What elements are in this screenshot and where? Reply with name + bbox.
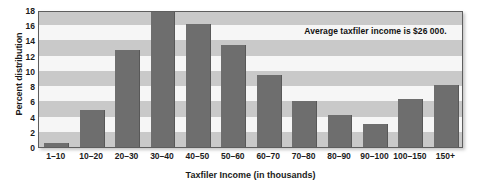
y-axis-tick-labels: 181614121086420 [17, 11, 35, 148]
x-axis-tick-label: 60–70 [256, 151, 280, 161]
x-axis-tick-label: 20–30 [115, 151, 139, 161]
bar [221, 45, 246, 147]
x-axis-tick-label: 1–10 [46, 151, 65, 161]
x-axis-tick-label: 100–150 [393, 151, 426, 161]
bar [398, 99, 423, 147]
x-axis-tick-labels: 1–1010–2020–3030–4040–5050–6060–7070–808… [38, 151, 463, 165]
bar [186, 24, 211, 147]
x-axis-tick-label: 90–100 [360, 151, 388, 161]
x-axis-tick-label: 30–40 [150, 151, 174, 161]
y-axis-tick-label: 14 [17, 36, 35, 46]
x-axis-tick-label: 50–60 [221, 151, 245, 161]
x-axis-title: Taxfiler Income (in thousands) [38, 170, 463, 180]
bar [363, 124, 388, 147]
bar-chart: Percent distribution 181614121086420 Ave… [0, 0, 481, 188]
x-axis-tick-label: 150+ [436, 151, 455, 161]
chart-annotation: Average taxfiler income is $26 000. [304, 26, 446, 36]
y-axis-tick-label: 10 [17, 67, 35, 77]
bar [151, 12, 176, 147]
bar [257, 75, 282, 147]
bar [292, 101, 317, 147]
x-axis-tick-label: 80–90 [327, 151, 351, 161]
bar [115, 50, 140, 147]
y-axis-tick-label: 18 [17, 6, 35, 16]
y-axis-tick-label: 0 [17, 143, 35, 153]
y-axis-tick-label: 6 [17, 97, 35, 107]
y-axis-tick-label: 2 [17, 128, 35, 138]
y-axis-tick-label: 4 [17, 113, 35, 123]
y-axis-tick-label: 12 [17, 52, 35, 62]
x-axis-tick-label: 10–20 [79, 151, 103, 161]
bar [80, 110, 105, 147]
x-axis-tick-label: 70–80 [292, 151, 316, 161]
bar [44, 143, 69, 147]
bar [434, 85, 459, 147]
x-axis-tick-label: 40–50 [186, 151, 210, 161]
bar [328, 115, 353, 147]
y-axis-tick-label: 16 [17, 21, 35, 31]
y-axis-tick-label: 8 [17, 82, 35, 92]
plot-area: Average taxfiler income is $26 000. [38, 11, 463, 148]
